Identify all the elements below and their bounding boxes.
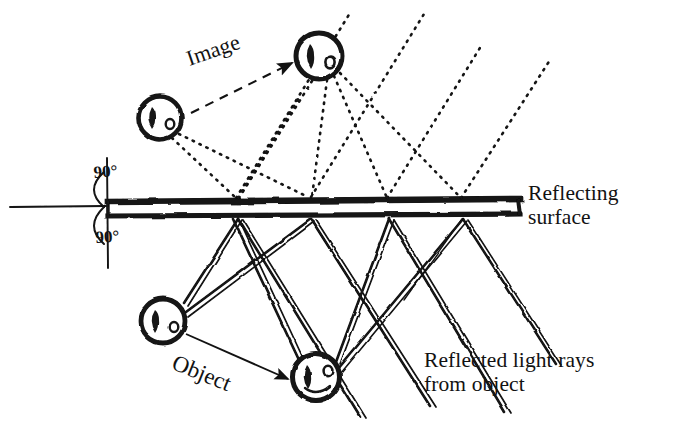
label-reflecting-surface: Reflecting surface <box>528 181 619 229</box>
figure-canvas: Reflecting surface Reflected light rays … <box>0 0 677 431</box>
label-angle-top: 90° <box>93 161 118 183</box>
image-pointer-arrow <box>191 63 292 113</box>
label-angle-bottom: 90° <box>95 227 120 248</box>
object-face-right <box>293 354 340 401</box>
image-face-left <box>139 97 182 140</box>
label-reflected-light-rays: Reflected light rays from object <box>424 348 594 396</box>
image-face-right <box>296 33 342 79</box>
object-face-left <box>141 299 185 343</box>
reflecting-surface-bar <box>108 199 520 216</box>
